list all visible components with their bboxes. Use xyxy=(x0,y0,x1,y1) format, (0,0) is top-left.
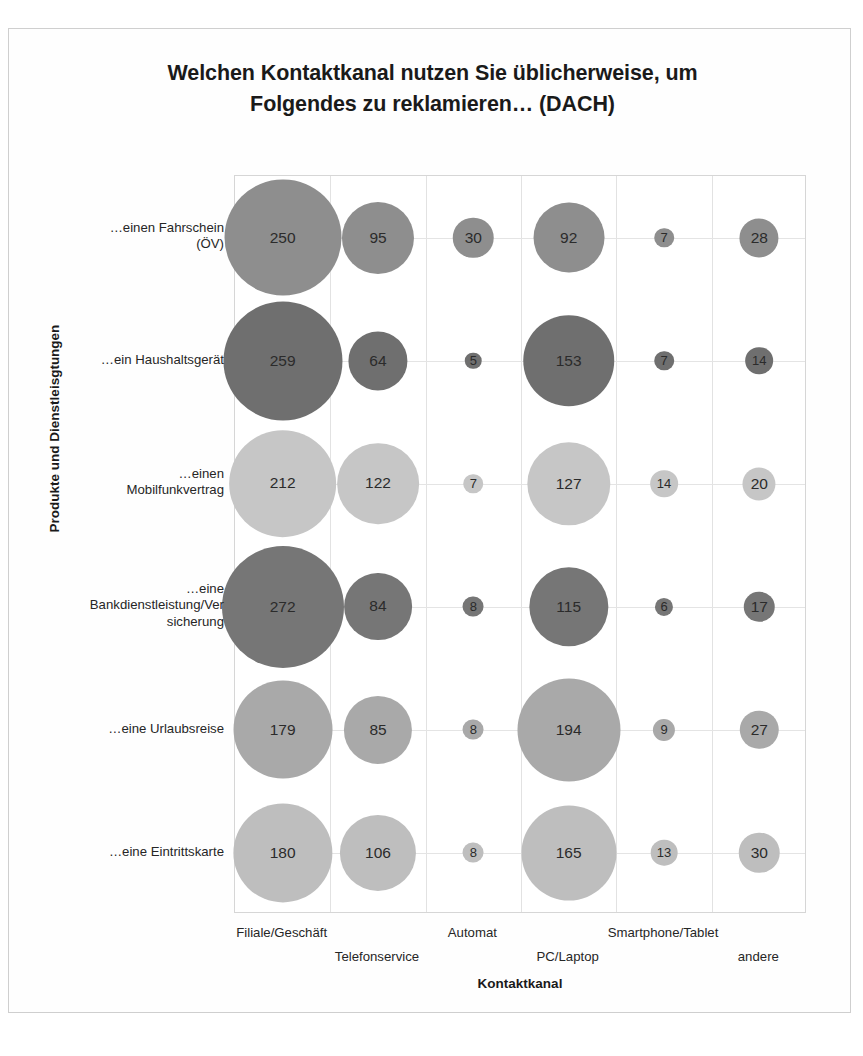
bubble: 28 xyxy=(740,218,779,257)
gridline-vertical xyxy=(521,176,522,912)
bubble-value-label: 272 xyxy=(270,599,296,615)
bubble-value-label: 30 xyxy=(465,230,482,246)
bubble-value-label: 14 xyxy=(657,477,671,490)
x-axis-label: andere xyxy=(738,949,779,964)
gridline-vertical xyxy=(712,176,713,912)
bubble: 13 xyxy=(651,839,678,866)
bubble-value-label: 153 xyxy=(556,353,582,369)
gridline-vertical xyxy=(426,176,427,912)
bubble-value-label: 122 xyxy=(365,476,391,492)
bubble-value-label: 180 xyxy=(270,845,296,861)
x-axis-labels: Filiale/GeschäftTelefonserviceAutomatPC/… xyxy=(234,913,806,975)
bubble: 14 xyxy=(650,470,678,498)
bubble: 7 xyxy=(464,474,484,494)
x-axis-label: Smartphone/Tablet xyxy=(608,925,719,940)
bubble-value-label: 9 xyxy=(660,723,667,736)
bubble-value-label: 6 xyxy=(660,600,667,613)
bubble: 165 xyxy=(521,805,616,900)
bubble-value-label: 17 xyxy=(751,599,768,615)
bubble-value-label: 20 xyxy=(751,476,768,492)
scanned-page: Welchen Kontaktkanal nutzen Sie üblicher… xyxy=(0,0,863,1056)
bubble-value-label: 14 xyxy=(752,354,766,367)
bubble: 259 xyxy=(223,301,342,420)
bubble: 20 xyxy=(743,467,776,500)
bubble-value-label: 84 xyxy=(369,599,386,615)
bubble: 84 xyxy=(344,573,412,641)
bubble: 194 xyxy=(517,678,620,781)
bubble: 6 xyxy=(655,597,673,615)
bubble-value-label: 8 xyxy=(470,846,477,859)
bubble-value-label: 92 xyxy=(560,230,577,246)
bubble: 7 xyxy=(654,351,674,371)
bubble: 180 xyxy=(233,803,332,902)
bubble: 272 xyxy=(222,546,344,668)
bubble-value-label: 8 xyxy=(470,723,477,736)
bubble: 8 xyxy=(463,719,484,740)
y-axis-label: …eine Bankdienstleistung/Ver sicherung xyxy=(24,580,224,631)
bubble: 127 xyxy=(527,442,610,525)
bubble-value-label: 250 xyxy=(270,230,296,246)
bubble: 30 xyxy=(739,832,780,873)
bubble: 179 xyxy=(233,680,332,779)
x-axis-label: Filiale/Geschäft xyxy=(236,925,327,940)
bubble: 17 xyxy=(744,591,775,622)
chart-title: Welchen Kontaktkanal nutzen Sie üblicher… xyxy=(60,58,805,119)
x-axis-label: Automat xyxy=(448,925,497,940)
bubble-value-label: 106 xyxy=(365,845,391,861)
bubble: 85 xyxy=(344,695,412,763)
gridline-vertical xyxy=(616,176,617,912)
bubble: 7 xyxy=(654,228,674,248)
bubble: 212 xyxy=(229,430,337,538)
bubble: 95 xyxy=(342,201,414,273)
bubble: 115 xyxy=(529,567,608,646)
x-axis-label: Telefonservice xyxy=(335,949,419,964)
bubble-value-label: 5 xyxy=(470,354,477,367)
bubble-value-label: 85 xyxy=(369,722,386,738)
bubble: 153 xyxy=(523,315,615,407)
bubble-value-label: 259 xyxy=(270,353,296,369)
bubble: 8 xyxy=(463,842,484,863)
bubble-value-label: 30 xyxy=(751,845,768,861)
bubble-value-label: 95 xyxy=(369,230,386,246)
bubble-value-label: 64 xyxy=(369,353,386,369)
bubble: 250 xyxy=(224,179,341,296)
bubble-value-label: 194 xyxy=(556,722,582,738)
bubble: 64 xyxy=(348,331,407,390)
bubble: 8 xyxy=(463,596,484,617)
bubble-value-label: 13 xyxy=(657,846,671,859)
bubble-value-label: 165 xyxy=(556,845,582,861)
bubble: 30 xyxy=(453,217,494,258)
gridline-vertical xyxy=(330,176,331,912)
bubble: 27 xyxy=(740,710,778,748)
bubble-value-label: 115 xyxy=(556,599,581,615)
bubble-value-label: 7 xyxy=(660,354,667,367)
y-axis-label: …eine Urlaubsreise xyxy=(24,720,224,737)
bubble: 106 xyxy=(340,814,416,890)
bubble-value-label: 212 xyxy=(270,476,296,492)
bubble-value-label: 27 xyxy=(751,722,768,738)
y-axis-label: …eine Eintrittskarte xyxy=(24,843,224,860)
bubble-value-label: 179 xyxy=(270,722,296,738)
y-axis-label: …ein Haushaltsgerät xyxy=(24,351,224,368)
bubble-value-label: 8 xyxy=(470,600,477,613)
x-axis-title: Kontaktkanal xyxy=(234,976,806,991)
bubble: 5 xyxy=(465,352,482,369)
bubble: 14 xyxy=(745,347,773,375)
y-axis-label: …einen Fahrschein (ÖV) xyxy=(24,220,224,254)
bubble-value-label: 7 xyxy=(660,231,667,244)
bubble-value-label: 28 xyxy=(751,230,768,246)
bubble-value-label: 7 xyxy=(470,477,477,490)
x-axis-label: PC/Laptop xyxy=(536,949,598,964)
bubble: 122 xyxy=(337,443,419,525)
y-axis-label: …einen Mobilfunkvertrag xyxy=(24,466,224,500)
bubble: 92 xyxy=(533,202,604,273)
y-axis-labels: …einen Fahrschein (ÖV)…ein Haushaltsgerä… xyxy=(22,175,224,913)
bubble-value-label: 127 xyxy=(556,476,582,492)
plot-area: 2509530927282596451537142121227127142027… xyxy=(234,175,806,913)
bubble: 9 xyxy=(653,718,675,740)
